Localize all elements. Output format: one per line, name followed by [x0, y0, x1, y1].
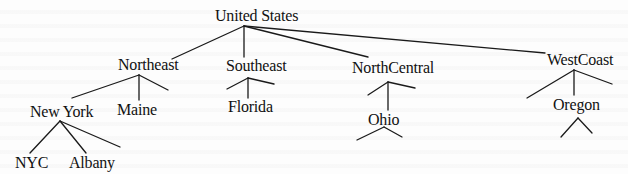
node-florida: Florida — [228, 99, 273, 115]
node-southeast: Southeast — [226, 58, 286, 74]
edge-root-northeast — [172, 26, 244, 59]
edge-newyork-albany — [60, 121, 86, 153]
edge-westcoast-stub-left — [527, 70, 574, 98]
node-albany: Albany — [69, 155, 115, 171]
edge-newyork-nyc — [30, 121, 60, 153]
node-new-york: New York — [30, 104, 93, 120]
node-maine: Maine — [117, 102, 157, 118]
tree-edges — [0, 0, 628, 174]
node-westcoast: WestCoast — [547, 52, 613, 68]
tree-diagram: United States Northeast Southeast NorthC… — [0, 0, 628, 174]
node-northcentral: NorthCentral — [352, 60, 434, 76]
node-ohio: Ohio — [368, 112, 399, 128]
edge-northeast-stub — [139, 75, 168, 90]
edge-oregon-stub-left — [561, 118, 578, 137]
node-nyc: NYC — [15, 155, 48, 171]
edge-westcoast-stub-right — [574, 70, 612, 84]
edge-northeast-newyork — [72, 75, 139, 98]
edge-southeast-stub-left — [227, 78, 248, 89]
edge-root-northcentral — [244, 26, 368, 57]
edge-root-westcoast — [244, 26, 545, 53]
edge-southeast-stub-right — [248, 78, 274, 84]
edge-oregon-stub-right — [578, 118, 592, 133]
node-united-states: United States — [215, 8, 298, 24]
edge-northcentral-stub-left — [368, 82, 388, 95]
node-oregon: Oregon — [553, 97, 600, 113]
edge-newyork-stub — [60, 121, 120, 147]
node-northeast: Northeast — [118, 57, 178, 73]
edge-northcentral-stub-right — [388, 82, 415, 88]
edge-ohio-stub-right — [384, 127, 402, 137]
edge-ohio-stub-left — [357, 127, 384, 140]
